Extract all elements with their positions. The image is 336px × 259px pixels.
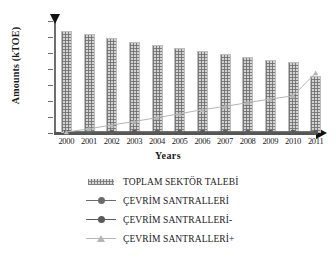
legend-pattern-swatch-icon bbox=[86, 177, 116, 187]
line-path bbox=[66, 73, 315, 132]
y-axis-tick-mark bbox=[48, 117, 53, 118]
data-point-marker bbox=[268, 130, 273, 135]
legend-item-label: ÇEVRİM SANTRALLERİ bbox=[123, 196, 229, 206]
plot-area bbox=[55, 21, 327, 133]
data-point-marker bbox=[313, 130, 318, 135]
data-point-marker bbox=[132, 130, 137, 135]
data-point-marker bbox=[109, 130, 114, 135]
circle-marker-icon bbox=[98, 197, 105, 204]
line-series-group bbox=[55, 21, 327, 133]
legend-item[interactable]: TOPLAM SEKTÖR TALEBİ bbox=[0, 172, 336, 191]
legend-item[interactable]: ÇEVRİM SANTRALLERİ+ bbox=[0, 229, 336, 248]
y-axis-tick-mark bbox=[48, 21, 53, 22]
legend-line-marker-icon bbox=[86, 196, 116, 206]
y-axis-tick-mark bbox=[48, 69, 53, 70]
chart-legend: TOPLAM SEKTÖR TALEBİÇEVRİM SANTRALLERİÇE… bbox=[0, 172, 336, 248]
data-point-marker bbox=[177, 130, 182, 135]
y-axis-tick-mark bbox=[48, 85, 53, 86]
data-point-marker bbox=[200, 130, 205, 135]
data-point-marker bbox=[313, 71, 318, 76]
legend-item[interactable]: ÇEVRİM SANTRALLERİ bbox=[0, 191, 336, 210]
legend-item[interactable]: ÇEVRİM SANTRALLERİ- bbox=[0, 210, 336, 229]
legend-line-marker-icon bbox=[86, 215, 116, 225]
y-axis-tick-mark bbox=[48, 133, 53, 134]
data-point-marker bbox=[155, 130, 160, 135]
triangle-marker-icon bbox=[97, 235, 105, 242]
x-axis-tick-labels: 2000200120022003200420052006200720082009… bbox=[40, 136, 336, 150]
legend-item-label: TOPLAM SEKTÖR TALEBİ bbox=[123, 177, 238, 187]
data-point-marker bbox=[223, 130, 228, 135]
data-point-marker bbox=[291, 130, 296, 135]
y-axis-tick-mark bbox=[48, 37, 53, 38]
pattern-swatch-icon bbox=[88, 179, 114, 185]
circle-marker-icon bbox=[98, 216, 105, 223]
legend-item-label: ÇEVRİM SANTRALLERİ+ bbox=[123, 234, 235, 244]
y-axis-tick-mark bbox=[48, 53, 53, 54]
x-axis-tick-label: 2011 bbox=[301, 136, 331, 146]
chart-figure: Amounts (kTOE) 0100020003000400050006000… bbox=[0, 0, 336, 259]
legend-item-label: ÇEVRİM SANTRALLERİ- bbox=[123, 215, 232, 225]
x-axis-title: Years bbox=[0, 150, 336, 161]
legend-line-marker-icon bbox=[86, 234, 116, 244]
y-axis-title: Amounts (kTOE) bbox=[10, 10, 21, 122]
data-point-marker bbox=[245, 130, 250, 135]
y-axis-tick-mark bbox=[48, 101, 53, 102]
